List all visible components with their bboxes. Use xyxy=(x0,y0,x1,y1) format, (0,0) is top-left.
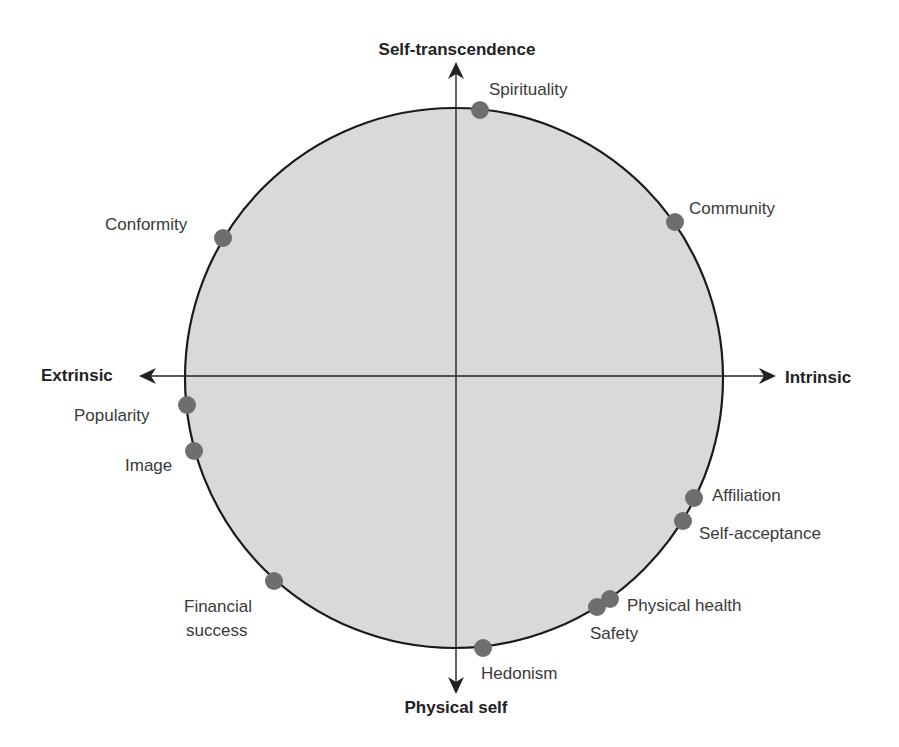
goal-dot-hedonism xyxy=(474,639,492,657)
goal-label-hedonism: Hedonism xyxy=(481,664,558,684)
goal-circle xyxy=(185,108,723,648)
goal-circumplex-diagram: Self-transcendence Physical self Extrins… xyxy=(0,0,899,747)
goal-label-conformity: Conformity xyxy=(105,215,187,235)
goal-label-financial-success-line2: success xyxy=(186,621,247,641)
goal-dot-spirituality xyxy=(471,101,489,119)
goal-dot-affiliation xyxy=(685,489,703,507)
goal-label-safety: Safety xyxy=(590,624,638,644)
goal-dot-image xyxy=(185,442,203,460)
goal-dot-conformity xyxy=(214,229,232,247)
goal-dot-safety xyxy=(588,598,606,616)
goal-dot-financial-success xyxy=(265,572,283,590)
goal-label-physical-health: Physical health xyxy=(627,596,741,616)
diagram-canvas xyxy=(0,0,899,747)
goal-label-popularity: Popularity xyxy=(74,406,150,426)
axis-label-top: Self-transcendence xyxy=(356,40,558,60)
axis-label-left: Extrinsic xyxy=(41,366,113,386)
goal-dot-community xyxy=(666,213,684,231)
goal-label-affiliation: Affiliation xyxy=(712,486,781,506)
goal-label-spirituality: Spirituality xyxy=(489,80,567,100)
goal-dot-self-acceptance xyxy=(674,512,692,530)
goal-label-self-acceptance: Self-acceptance xyxy=(699,524,821,544)
axis-label-bottom: Physical self xyxy=(386,698,526,718)
axis-label-right: Intrinsic xyxy=(785,368,851,388)
goal-label-community: Community xyxy=(689,199,775,219)
goal-dot-popularity xyxy=(178,396,196,414)
goal-label-image: Image xyxy=(125,456,172,476)
goal-label-financial-success-line1: Financial xyxy=(184,597,252,617)
